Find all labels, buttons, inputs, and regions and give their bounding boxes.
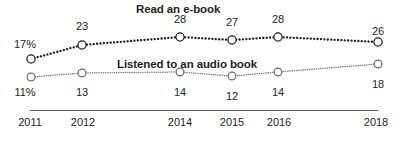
- value-label-audiobook-2018: 18: [372, 78, 384, 90]
- value-label-ebook-2018: 26: [372, 25, 384, 37]
- value-label-ebook-2012: 23: [76, 20, 88, 32]
- data-point-ebook-2014: [176, 33, 184, 41]
- value-label-ebook-2011: 17%: [14, 38, 36, 50]
- data-point-audiobook-2016: [274, 68, 282, 76]
- x-axis-tick-2011: 2011: [18, 116, 42, 128]
- x-axis-tick-2012: 2012: [71, 116, 95, 128]
- data-point-audiobook-2015: [228, 72, 236, 80]
- data-point-audiobook-2012: [78, 69, 86, 77]
- value-label-audiobook-2012: 13: [76, 86, 88, 98]
- data-point-audiobook-2011: [27, 73, 35, 81]
- data-point-audiobook-2018: [374, 60, 382, 68]
- data-point-ebook-2016: [274, 33, 282, 41]
- chart-plot-area: [0, 0, 407, 142]
- value-label-ebook-2016: 28: [272, 13, 284, 25]
- value-label-audiobook-2011: 11%: [14, 86, 35, 98]
- value-label-ebook-2015: 27: [226, 16, 238, 28]
- value-label-audiobook-2016: 14: [272, 86, 284, 98]
- data-point-ebook-2018: [374, 38, 382, 46]
- x-axis-tick-2016: 2016: [267, 116, 291, 128]
- x-axis-tick-2015: 2015: [220, 116, 244, 128]
- value-label-audiobook-2015: 12: [226, 90, 238, 102]
- x-axis-tick-2014: 2014: [168, 116, 192, 128]
- data-point-ebook-2011: [27, 55, 35, 63]
- value-label-audiobook-2014: 14: [174, 86, 186, 98]
- value-label-ebook-2014: 28: [174, 13, 186, 25]
- x-axis-tick-2018: 2018: [364, 116, 388, 128]
- series-title-audiobook: Listened to an audio book: [117, 58, 257, 70]
- data-point-ebook-2015: [228, 36, 236, 44]
- chart-container: Read an e-book Listened to an audio book…: [0, 0, 407, 142]
- data-point-ebook-2012: [78, 41, 86, 49]
